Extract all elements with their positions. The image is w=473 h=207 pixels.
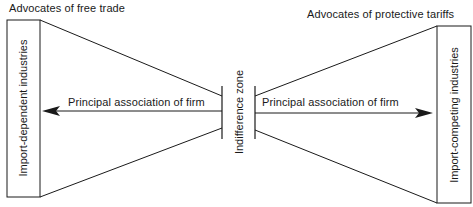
right-arrow-label: Principal association of firm	[262, 96, 399, 108]
right-funnel-top-line	[255, 26, 437, 96]
indifference-zone-label: Indifference zone	[233, 70, 245, 154]
left-heading: Advocates of free trade	[9, 2, 125, 14]
left-funnel-bottom-line	[40, 128, 222, 197]
left-arrow-label: Principal association of firm	[68, 96, 205, 108]
right-funnel-bottom-line	[255, 130, 437, 203]
right-box-label: Import-competing industries	[448, 47, 460, 183]
left-funnel-top-line	[40, 20, 222, 96]
left-box-label: Import-dependent industries	[17, 40, 29, 177]
right-heading: Advocates of protective tariffs	[307, 8, 454, 20]
